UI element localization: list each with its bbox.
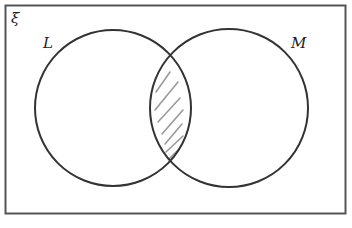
set-l-label: L <box>43 36 53 51</box>
universal-set-label: ξ <box>11 11 19 26</box>
set-l-circle <box>35 30 191 186</box>
set-m-circle <box>150 29 308 187</box>
set-m-label: M <box>291 36 306 51</box>
